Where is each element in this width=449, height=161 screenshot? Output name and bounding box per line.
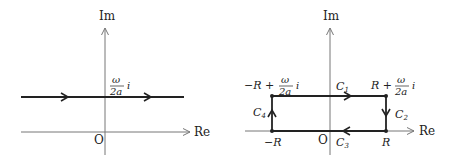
left-re-label: Re <box>194 125 210 139</box>
svg-text:2a: 2a <box>278 86 291 97</box>
right-im-label: Im <box>323 9 340 23</box>
line-height-label: ω 2a i <box>109 74 130 97</box>
svg-text:−R +: −R + <box>244 79 274 92</box>
c4-label: C4 <box>253 106 266 120</box>
corner-bottom-right-label: R <box>381 136 390 149</box>
left-im-label: Im <box>99 9 116 23</box>
right-re-label: Re <box>419 124 435 138</box>
svg-text:ω: ω <box>281 74 289 85</box>
svg-text:2a: 2a <box>394 86 407 97</box>
svg-text:i: i <box>127 80 130 91</box>
svg-text:ω: ω <box>397 74 405 85</box>
svg-text:i: i <box>412 80 415 91</box>
c2-label: C2 <box>395 108 408 122</box>
rectangular-contour <box>268 92 390 135</box>
right-origin-label: O <box>318 133 328 147</box>
left-origin-label: O <box>94 133 104 147</box>
svg-text:2a: 2a <box>109 86 122 97</box>
svg-text:R +: R + <box>370 79 392 92</box>
corner-bottom-left-label: −R <box>264 136 282 149</box>
contour-diagrams: Im Re O ω 2a i Im Re O <box>0 0 449 161</box>
c1-label: C1 <box>336 80 349 94</box>
corner-dot <box>270 94 274 98</box>
c3-label: C3 <box>336 136 349 150</box>
corner-top-right-label: R + ω 2a i <box>370 74 415 97</box>
corner-dot <box>270 129 274 133</box>
left-diagram: Im Re O ω 2a i <box>21 9 210 155</box>
right-diagram: Im Re O −R + ω 2a i R + ω <box>244 9 435 155</box>
corner-top-left-label: −R + ω 2a i <box>244 74 299 97</box>
svg-text:ω: ω <box>112 74 120 85</box>
corner-dot <box>384 129 388 133</box>
svg-text:i: i <box>296 80 299 91</box>
corner-dot <box>384 94 388 98</box>
